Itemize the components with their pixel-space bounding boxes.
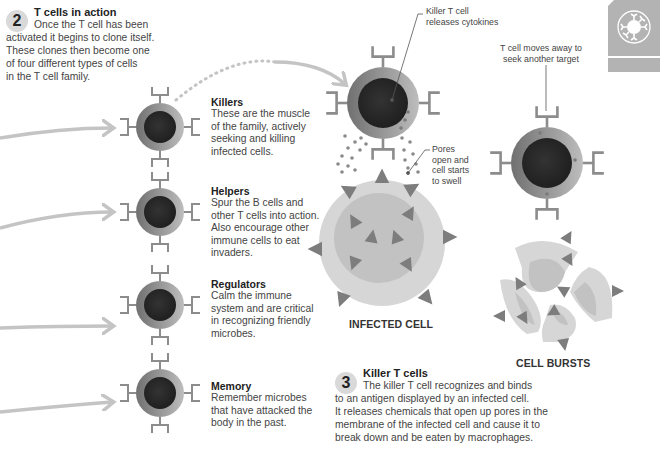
section-2-line-1: Once the T cell has been: [34, 19, 148, 32]
section-2-line-4: of four different types of cells: [6, 58, 137, 71]
section-3-line-5: break down and be eaten by macrophages.: [335, 432, 533, 445]
section-3-title: Killer T cells: [363, 367, 428, 379]
regulators-line: system and are critical: [211, 303, 313, 316]
killers-line: seeking and killing: [211, 133, 310, 146]
helpers-line: invaders.: [211, 247, 319, 260]
killers-title: Killers: [211, 96, 310, 108]
helpers-line: other T cells into action.: [211, 210, 319, 223]
callout-line: Killer T cell: [426, 6, 498, 17]
corner-tab: [608, 0, 660, 72]
section-3-line-2: to an antigen displayed by an infected c…: [335, 393, 529, 406]
helpers-line: immune cells to eat: [211, 235, 319, 248]
memory-title: Memory: [211, 380, 312, 392]
infected-cell-label: INFECTED CELL: [349, 318, 433, 330]
infected-cell: [308, 169, 458, 310]
regulator-tcell: [120, 265, 200, 345]
regulators-line: in recognizing friendly: [211, 315, 313, 328]
callout-line: Pores: [432, 144, 469, 155]
section-2-line-3: These clones then become one: [6, 45, 150, 58]
cell-type-helpers: Helpers Spur the B cells and other T cel…: [211, 185, 319, 260]
callout-line: to swell: [432, 176, 469, 187]
step-badge-2: 2: [6, 10, 28, 32]
regulators-title: Regulators: [211, 278, 313, 290]
callout-moves-away: T cell moves away to seek another target: [500, 43, 582, 64]
departing-tcell: [490, 106, 604, 220]
burst-cell-fragments: [493, 228, 624, 352]
memory-line: that have attacked the: [211, 405, 312, 418]
section-2-title: T cells in action: [34, 6, 117, 18]
callout-line: T cell moves away to: [500, 43, 582, 54]
killers-line: These are the muscle: [211, 108, 310, 121]
memory-line: Remember microbes: [211, 392, 312, 405]
section-3-line-3: It releases chemicals that open up pores…: [335, 406, 548, 419]
killer-path-arrow: [176, 61, 345, 100]
section-2-line-5: in the T cell family.: [6, 71, 90, 84]
helpers-line: Also encourage other: [211, 222, 319, 235]
cell-type-regulators: Regulators Calm the immune system and ar…: [211, 278, 313, 340]
cell-bursts-label: CELL BURSTS: [516, 357, 590, 369]
killers-line: infected cells.: [211, 146, 310, 159]
callout-line: cell starts: [432, 165, 469, 176]
regulators-line: Calm the immune: [211, 290, 313, 303]
killer-tcell-large: [326, 46, 440, 160]
cell-type-killers: Killers These are the muscle of the fami…: [211, 96, 310, 158]
callout-line: seek another target: [500, 54, 582, 65]
helpers-line: Spur the B cells and: [211, 197, 319, 210]
callout-line: releases cytokines: [426, 17, 498, 28]
callout-pores: Pores open and cell starts to swell: [432, 144, 469, 186]
callout-line: open and: [432, 155, 469, 166]
memory-tcell: [120, 353, 200, 433]
killers-line: of the family, actively: [211, 121, 310, 134]
cytokine-dots: [336, 134, 420, 174]
step-badge-3: 3: [335, 372, 357, 394]
callout-cytokines: Killer T cell releases cytokines: [426, 6, 498, 27]
killer-tcell: [120, 87, 200, 167]
memory-line: body in the past.: [211, 417, 312, 430]
regulators-line: microbes.: [211, 328, 313, 341]
cell-type-memory: Memory Remember microbes that have attac…: [211, 380, 312, 430]
helper-tcell: [120, 172, 200, 252]
section-3-line-4: membrane of the infected cell and cause …: [335, 419, 540, 432]
section-3-line-1: The killer T cell recognizes and binds: [363, 380, 532, 393]
helpers-title: Helpers: [211, 185, 319, 197]
section-2-line-2: activated it begins to clone itself.: [6, 32, 154, 45]
immune-cell-icon: [618, 11, 650, 43]
feed-arrows: [0, 128, 112, 412]
